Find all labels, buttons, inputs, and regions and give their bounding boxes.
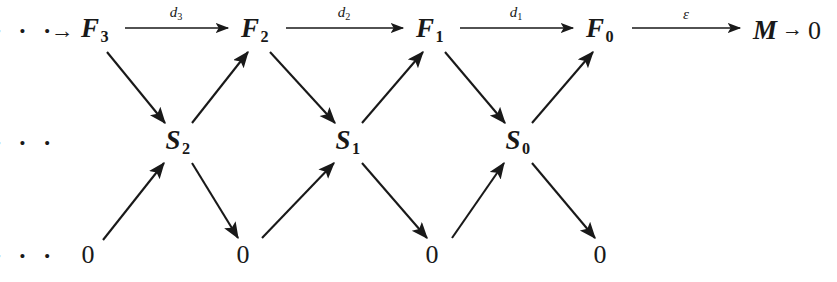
diagonal-S0-to-zero xyxy=(532,163,595,238)
diagonal-F1-to-S0 xyxy=(445,52,505,123)
top-row-leading-arrow-icon: → xyxy=(51,19,74,42)
node-F3: F3 xyxy=(81,15,109,45)
terminal-zero: 0 xyxy=(808,16,821,45)
node-zero-1: 0 xyxy=(237,242,250,268)
math-diagram: · · ·→F3F2F1F0M→0· · ·S2S1S0· · ·0000 d3… xyxy=(0,0,837,282)
node-F2: F2 xyxy=(241,15,269,45)
diagonal-zero-to-S2 xyxy=(103,163,164,240)
top-row-leading-ellipsis: · · · xyxy=(0,18,56,43)
node-S1: S1 xyxy=(335,127,360,157)
node-F0: F0 xyxy=(586,15,614,45)
node-M: M xyxy=(753,15,777,45)
diagonal-S1-to-zero xyxy=(362,163,427,238)
diagonal-S2-to-zero xyxy=(192,163,238,238)
diagonal-F2-to-S1 xyxy=(270,52,335,123)
diagonal-S0-to-F0 xyxy=(532,52,593,123)
edge-label-0: d3 xyxy=(170,5,183,22)
terminal-arrow-icon: → xyxy=(777,17,808,41)
node-F1: F1 xyxy=(416,15,444,45)
diagonal-zero-to-S1 xyxy=(262,163,334,238)
edge-label-2: d1 xyxy=(510,5,523,22)
middle-row-leading-ellipsis: · · · xyxy=(0,130,56,155)
diagonal-F3-to-S2 xyxy=(107,52,165,123)
diagonal-S1-to-F1 xyxy=(362,52,423,123)
edge-label-1: d2 xyxy=(338,5,351,22)
bottom-row-leading-ellipsis: · · · xyxy=(0,243,56,268)
node-zero-3: 0 xyxy=(594,242,607,268)
terminal-M-to-zero: M→0 xyxy=(753,17,821,44)
diagonal-zero-to-S0 xyxy=(452,163,504,238)
edge-label-3: ε xyxy=(683,7,689,22)
node-S2: S2 xyxy=(165,127,190,157)
node-zero-2: 0 xyxy=(426,242,439,268)
node-S0: S0 xyxy=(505,127,530,157)
node-zero-0: 0 xyxy=(82,242,95,268)
diagonal-S2-to-F2 xyxy=(192,52,248,123)
